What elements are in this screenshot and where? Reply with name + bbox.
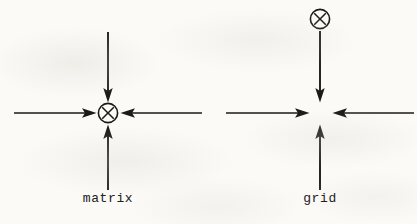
arrow-right-into-center: [226, 108, 310, 117]
matrix-figure: [14, 32, 202, 190]
arrow-down-into-node: [103, 32, 112, 103]
diagram-canvas: [0, 0, 417, 224]
matrix-label: matrix: [83, 192, 133, 206]
diagram-page: matrix grid: [0, 0, 417, 224]
arrow-left-into-center: [333, 108, 415, 117]
circled-x-icon: [310, 9, 329, 28]
arrow-up-into-center: [315, 125, 324, 191]
arrow-left-into-node: [121, 108, 203, 117]
grid-label: grid: [303, 192, 337, 206]
grid-figure: [226, 9, 414, 190]
arrow-down-from-node: [315, 31, 324, 103]
arrow-right-into-node: [14, 108, 97, 117]
arrow-up-into-node: [103, 125, 112, 191]
circled-x-icon: [98, 103, 117, 122]
